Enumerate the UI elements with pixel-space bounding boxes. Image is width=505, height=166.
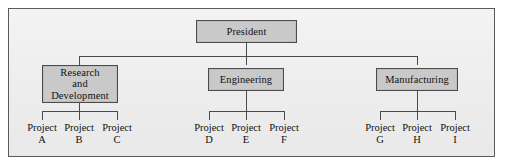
leaf-project-i[interactable]: Project I [429,122,481,147]
node-engineering-label: Engineering [220,74,272,85]
leaf-project-c-id: C [91,134,143,146]
connector-tick-project-c [117,111,118,120]
node-engineering[interactable]: Engineering [208,68,284,91]
node-manufacturing-label: Manufacturing [385,74,449,85]
connector-tick-project-h [417,111,418,120]
connector-division-bus [79,56,418,57]
leaf-project-i-id: I [429,134,481,146]
connector-tick-project-e [246,111,247,120]
connector-tick-project-g [380,111,381,120]
connector-manufacturing-stem [417,91,418,111]
connector-tick-project-b [79,111,80,120]
node-rnd-label-line2: and [72,78,87,89]
connector-tick-project-d [209,111,210,120]
connector-engineering-stem [246,91,247,111]
leaf-project-c-name: Project [91,122,143,134]
connector-tick-project-i [455,111,456,120]
connector-rnd-stem [79,103,80,111]
connector-tick-project-f [284,111,285,120]
connector-drop-rnd [79,56,80,65]
connector-drop-engineering [246,56,247,65]
node-rnd-label-line3: Development [51,90,109,101]
node-research-and-development[interactable]: Research and Development [42,65,118,103]
connector-drop-manufacturing [417,56,418,65]
node-president[interactable]: President [196,20,297,43]
leaf-project-f-id: F [258,134,310,146]
leaf-project-c[interactable]: Project C [91,122,143,147]
node-manufacturing[interactable]: Manufacturing [376,68,458,91]
node-rnd-label-line1: Research [60,67,99,78]
connector-president-stem [246,43,247,56]
org-chart-image: President Research and Development Engin… [0,0,505,166]
connector-tick-project-a [42,111,43,120]
leaf-project-f-name: Project [258,122,310,134]
node-president-label: President [227,26,267,37]
leaf-project-i-name: Project [429,122,481,134]
leaf-project-f[interactable]: Project F [258,122,310,147]
